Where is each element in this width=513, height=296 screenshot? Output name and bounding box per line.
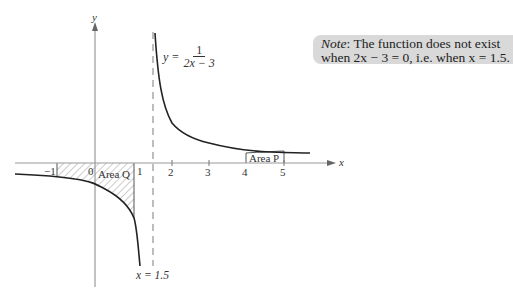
note-line1: : The function does not exist xyxy=(347,36,501,51)
function-label: y = 1 2x − 3 xyxy=(163,44,215,70)
tick-label-0: 0 xyxy=(88,166,94,177)
asymptote-label: x = 1.5 xyxy=(136,270,169,281)
function-denominator: 2x − 3 xyxy=(183,57,214,70)
note-box: Note: The function does not exist when 2… xyxy=(313,35,513,64)
tick-label-4: 4 xyxy=(242,167,248,178)
note-prefix: Note xyxy=(321,36,347,51)
tick-label-5: 5 xyxy=(280,167,286,178)
y-axis-arrow-icon xyxy=(92,22,98,31)
tick-label-2: 2 xyxy=(168,167,174,178)
y-axis-label: y xyxy=(92,12,97,23)
note-line2: when 2x − 3 = 0, i.e. when x = 1.5. xyxy=(321,51,513,65)
tick-label-1: 1 xyxy=(137,166,143,177)
function-lhs: y = xyxy=(163,50,179,65)
area-p-label: Area P xyxy=(249,153,279,164)
x-axis-arrow-icon xyxy=(327,160,336,166)
tick-label-3: 3 xyxy=(205,167,211,178)
area-q-label: Area Q xyxy=(98,169,130,180)
x-axis-label: x xyxy=(339,157,344,168)
tick-label-neg1: −1 xyxy=(44,166,56,177)
